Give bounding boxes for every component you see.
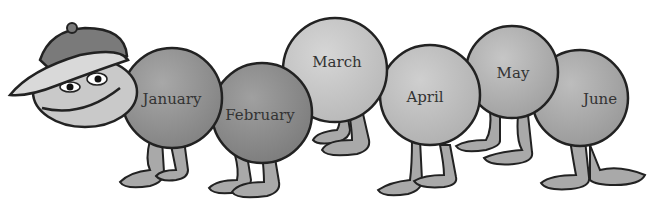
- caterpillar-illustration: January February March April May June: [0, 0, 656, 215]
- segment-label-january: January: [141, 90, 202, 108]
- segment-label-march: March: [312, 53, 362, 71]
- segment-label-february: February: [225, 106, 295, 124]
- segment-label-june: June: [581, 90, 617, 108]
- caterpillar-head: [10, 23, 137, 127]
- segment-label-may: May: [497, 64, 530, 82]
- segment-label-april: April: [405, 88, 443, 106]
